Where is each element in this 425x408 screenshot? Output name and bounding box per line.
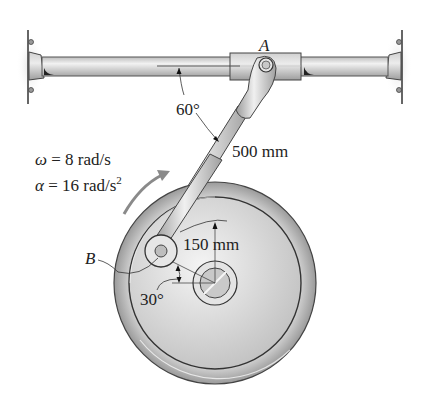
alpha-label: α = 16 rad/s2 (35, 175, 122, 194)
crank-pin-b (145, 235, 177, 267)
crank-radius-label: 150 mm (183, 236, 239, 253)
mechanism-diagram (0, 0, 425, 408)
angle-30-label: 30° (140, 291, 164, 308)
angle-60-label: 60° (176, 101, 200, 118)
alpha-symbol: α (35, 176, 44, 195)
omega-value: = 8 rad/s (47, 150, 111, 169)
point-a-label: A (259, 37, 269, 54)
omega-symbol: ω (35, 150, 47, 169)
point-b-label: B (85, 250, 95, 267)
left-wall-mount (16, 30, 44, 104)
horizontal-rod (42, 57, 388, 76)
omega-label: ω = 8 rad/s (35, 151, 111, 168)
alpha-value: = 16 rad/s (44, 176, 116, 195)
rod-length-label: 500 mm (232, 143, 288, 160)
alpha-exponent: 2 (116, 174, 122, 186)
